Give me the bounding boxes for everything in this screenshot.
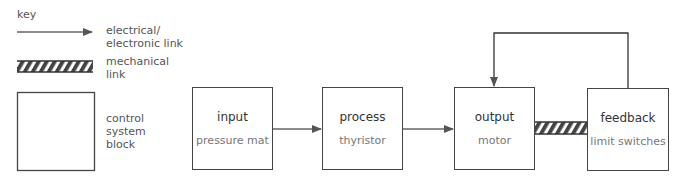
key-hatch-icon — [17, 61, 93, 72]
label-line: electrical/ — [106, 24, 183, 37]
block-title: output — [455, 110, 534, 124]
key-title: key — [17, 8, 36, 21]
block-subtitle: motor — [455, 134, 534, 147]
key-mechanical-label: mechanical link — [106, 55, 169, 81]
label-line: link — [106, 68, 169, 81]
block-title: process — [323, 110, 402, 124]
block-title: input — [193, 110, 272, 124]
block-title: feedback — [588, 111, 668, 125]
link-output-feedback — [535, 122, 587, 134]
block-feedback: feedback limit switches — [587, 88, 669, 171]
block-subtitle: pressure mat — [193, 134, 272, 147]
key-electrical-label: electrical/ electronic link — [106, 24, 183, 50]
block-output: output motor — [454, 87, 535, 170]
link-feedback-output — [494, 33, 628, 88]
key-block-label: control system block — [106, 112, 146, 151]
key-block-icon — [18, 93, 95, 171]
label-line: block — [106, 138, 146, 151]
label-line: electronic link — [106, 37, 183, 50]
block-process: process thyristor — [322, 87, 403, 170]
label-line: mechanical — [106, 55, 169, 68]
block-subtitle: limit switches — [588, 135, 668, 148]
block-input: input pressure mat — [192, 87, 273, 170]
label-line: system — [106, 125, 146, 138]
block-subtitle: thyristor — [323, 134, 402, 147]
label-line: control — [106, 112, 146, 125]
